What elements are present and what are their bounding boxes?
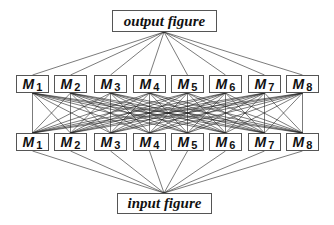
- module-subscript: 4: [153, 81, 159, 93]
- output-figure-label: output figure: [124, 13, 205, 30]
- module-subscript: 5: [191, 81, 197, 93]
- connection-lines: [0, 0, 334, 225]
- lower-module-m7: M7: [248, 133, 281, 151]
- module-subscript: 1: [36, 139, 42, 151]
- module-letter: M: [255, 76, 267, 92]
- upper-module-m3: M3: [94, 75, 127, 93]
- module-letter: M: [61, 76, 73, 92]
- module-subscript: 6: [229, 81, 235, 93]
- lower-module-m1: M1: [16, 133, 49, 151]
- module-subscript: 1: [36, 81, 42, 93]
- module-letter: M: [216, 134, 228, 150]
- module-letter: M: [23, 76, 35, 92]
- module-letter: M: [140, 134, 152, 150]
- module-subscript: 8: [306, 81, 312, 93]
- lower-module-m2: M2: [54, 133, 87, 151]
- lower-module-m6: M6: [209, 133, 242, 151]
- module-letter: M: [61, 134, 73, 150]
- module-subscript: 5: [191, 139, 197, 151]
- upper-module-m4: M4: [133, 75, 166, 93]
- module-letter: M: [178, 76, 190, 92]
- network-diagram: output figure M1M2M3M4M5M6M7M8 M1M2M3M4M…: [0, 0, 334, 225]
- upper-module-m7: M7: [248, 75, 281, 93]
- module-letter: M: [293, 134, 305, 150]
- module-subscript: 2: [74, 139, 80, 151]
- module-letter: M: [178, 134, 190, 150]
- upper-module-m6: M6: [209, 75, 242, 93]
- module-subscript: 2: [74, 81, 80, 93]
- input-figure-box: input figure: [117, 193, 212, 214]
- lower-module-m4: M4: [133, 133, 166, 151]
- upper-module-m2: M2: [54, 75, 87, 93]
- upper-module-m8: M8: [286, 75, 319, 93]
- module-letter: M: [216, 76, 228, 92]
- module-subscript: 3: [114, 139, 120, 151]
- lower-module-m8: M8: [286, 133, 319, 151]
- lower-module-m5: M5: [171, 133, 204, 151]
- upper-module-m5: M5: [171, 75, 204, 93]
- module-subscript: 3: [114, 81, 120, 93]
- output-figure-box: output figure: [112, 10, 217, 32]
- module-subscript: 7: [268, 139, 274, 151]
- module-letter: M: [140, 76, 152, 92]
- module-letter: M: [293, 76, 305, 92]
- module-letter: M: [101, 134, 113, 150]
- upper-module-m1: M1: [16, 75, 49, 93]
- module-subscript: 6: [229, 139, 235, 151]
- module-subscript: 7: [268, 81, 274, 93]
- lower-module-m3: M3: [94, 133, 127, 151]
- input-figure-label: input figure: [128, 195, 202, 212]
- module-letter: M: [101, 76, 113, 92]
- module-letter: M: [255, 134, 267, 150]
- module-subscript: 8: [306, 139, 312, 151]
- module-subscript: 4: [153, 139, 159, 151]
- module-letter: M: [23, 134, 35, 150]
